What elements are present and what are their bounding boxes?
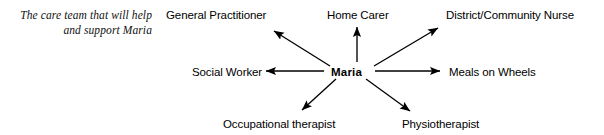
edge-maria-occupational-therapist — [302, 79, 336, 110]
node-physiotherapist: Physiotherapist — [402, 117, 479, 131]
node-home-carer: Home Carer — [327, 8, 389, 22]
node-district-community-nurse: District/Community Nurse — [446, 8, 574, 22]
node-meals-on-wheels: Meals on Wheels — [449, 65, 536, 79]
node-occupational-therapist: Occupational therapist — [223, 117, 335, 131]
node-social-worker: Social Worker — [192, 65, 262, 79]
edge-maria-general-practitioner — [274, 31, 330, 66]
edge-maria-district-community-nurse — [374, 28, 438, 66]
edge-maria-physiotherapist — [366, 79, 410, 111]
care-team-figure: The care team that will help and support… — [0, 0, 604, 135]
node-maria-center: Maria — [331, 65, 362, 79]
node-general-practitioner: General Practitioner — [166, 8, 266, 22]
figure-caption: The care team that will help and support… — [4, 8, 152, 37]
caption-line-1: The care team that will help — [4, 8, 152, 23]
caption-line-2: and support Maria — [4, 23, 152, 38]
